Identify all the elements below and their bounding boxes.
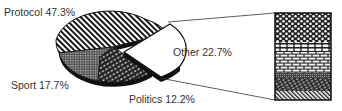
label-other: Other 22.7% (173, 46, 232, 58)
label-protocol: Protocol 47.3% (4, 6, 75, 18)
connector-top (168, 13, 275, 22)
label-sport: Sport 17.7% (11, 79, 69, 91)
pie-chart: Protocol 47.3% Sport 17.7% Politics 12.2… (0, 0, 342, 111)
other-breakdown-bar (275, 13, 331, 100)
label-politics: Politics 12.2% (129, 93, 195, 105)
pie-body (56, 11, 186, 87)
